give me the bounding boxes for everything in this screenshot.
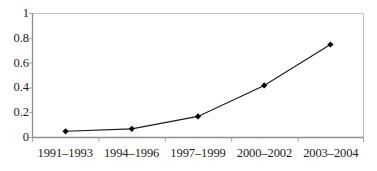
y-axis-ticks xyxy=(29,14,32,138)
x-axis-label-2003-2004: 2003–2004 xyxy=(298,146,364,166)
series-markers xyxy=(63,41,334,134)
y-axis-label-0: 0 xyxy=(2,131,29,144)
y-axis-label-1: 1 xyxy=(2,7,29,20)
x-axis-label-1997-1999: 1997–1999 xyxy=(165,146,231,166)
x-axis-label-2000-2002: 2000–2002 xyxy=(231,146,297,166)
data-point-4 xyxy=(327,41,333,47)
y-axis-label-0_6: 0.6 xyxy=(2,57,29,70)
x-axis-ticks xyxy=(33,138,364,143)
x-axis-label-1991-1993: 1991–1993 xyxy=(32,146,98,166)
data-point-0 xyxy=(63,128,69,134)
data-point-3 xyxy=(261,82,267,88)
y-axis-label-0_2: 0.2 xyxy=(2,106,29,119)
y-axis-label-0_8: 0.8 xyxy=(2,32,29,45)
data-point-2 xyxy=(195,113,201,119)
line-chart: 1 0.8 0.6 0.4 0.2 0 1991–1993 1994–1996 … xyxy=(0,0,377,171)
data-point-1 xyxy=(129,126,135,132)
x-axis-labels: 1991–1993 1994–1996 1997–1999 2000–2002 … xyxy=(32,146,364,166)
y-axis-label-0_4: 0.4 xyxy=(2,81,29,94)
y-axis-labels: 1 0.8 0.6 0.4 0.2 0 xyxy=(0,0,29,171)
x-axis-label-1994-1996: 1994–1996 xyxy=(98,146,164,166)
